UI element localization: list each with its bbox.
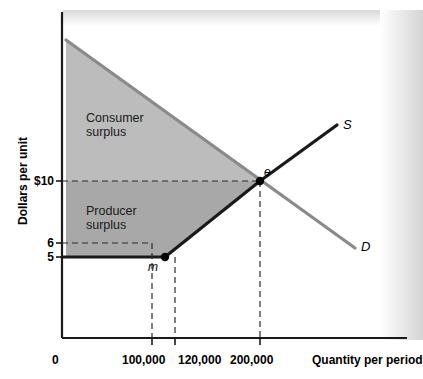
consumer-surplus-label: Consumer surplus — [86, 111, 144, 140]
equilibrium-point-label: e — [264, 166, 271, 178]
producer-surplus-label-line2: surplus — [86, 218, 137, 232]
y-tick-label-5: 5 — [18, 251, 54, 263]
chart-canvas — [0, 0, 423, 379]
x-tick-label-120000: 120,000 — [178, 354, 221, 366]
x-origin-label: 0 — [52, 354, 59, 366]
y-tick-label-10: $10 — [18, 175, 54, 187]
x-axis-title: Quantity per period — [312, 354, 423, 366]
demand-curve-label: D — [361, 240, 370, 253]
scan-tint-top — [62, 10, 407, 26]
producer-surplus-label-line1: Producer — [86, 204, 137, 218]
x-tick-label-200000: 200,000 — [230, 354, 273, 366]
producer-surplus-label: Producer surplus — [86, 204, 137, 233]
consumer-surplus-label-line1: Consumer — [86, 111, 144, 125]
supply-demand-figure: Dollars per unit $10 6 5 0 100,000 120,0… — [0, 0, 423, 379]
equilibrium-point-marker — [256, 177, 264, 185]
scan-tint-right — [380, 10, 423, 340]
x-tick-label-100000: 100,000 — [122, 354, 165, 366]
consumer-surplus-label-line2: surplus — [86, 125, 144, 139]
kink-point-marker — [161, 253, 169, 261]
y-tick-label-6: 6 — [18, 237, 54, 249]
supply-curve-label: S — [343, 118, 352, 131]
kink-point-label: m — [148, 261, 158, 273]
